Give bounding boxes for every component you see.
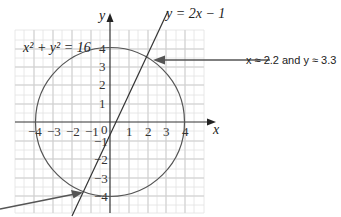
y-tick: 3 bbox=[99, 59, 106, 74]
line-equation: y = 2x − 1 bbox=[164, 6, 225, 21]
x-tick: −4 bbox=[28, 124, 42, 139]
y-tick: −2 bbox=[94, 152, 108, 167]
x-tick: −2 bbox=[66, 124, 80, 139]
y-tick: −1 bbox=[94, 134, 108, 149]
circle-equation: x² + y² = 16 bbox=[22, 40, 91, 55]
y-tick: 2 bbox=[99, 77, 106, 92]
x-tick: 1 bbox=[126, 124, 133, 139]
y-tick: 4 bbox=[99, 41, 106, 56]
x-tick: 2 bbox=[145, 124, 152, 139]
y-tick: −3 bbox=[94, 171, 108, 186]
graph: −4 −3 −2 −1 0 1 2 3 4 4 3 2 1 −1 −2 −3 −… bbox=[0, 0, 341, 217]
y-tick: −4 bbox=[94, 189, 108, 204]
x-tick: 3 bbox=[163, 124, 170, 139]
x-axis-label: x bbox=[212, 122, 220, 137]
x-tick: 4 bbox=[182, 124, 189, 139]
y-axis-label: y bbox=[97, 8, 106, 23]
y-axis-arrow-icon bbox=[107, 13, 114, 22]
y-tick: 1 bbox=[99, 96, 106, 111]
x-tick: −3 bbox=[47, 124, 61, 139]
annotation-upper: x ≈ 2.2 and y ≈ 3.3 bbox=[246, 54, 336, 66]
arrow-lower bbox=[0, 190, 83, 209]
